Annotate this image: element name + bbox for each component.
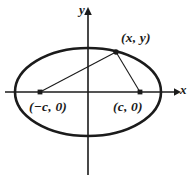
focal-radius-left-segment	[40, 52, 116, 92]
y-axis-label: y	[79, 3, 85, 16]
focus-left-point-marker	[38, 90, 43, 95]
focal-radii-group	[40, 52, 140, 92]
x-axis-label: x	[180, 83, 187, 96]
marked-points-group	[38, 49, 143, 94]
point-on-ellipse-label: (x, y)	[121, 31, 151, 45]
focus-right-point-marker	[138, 90, 143, 95]
ellipse-figure: y x (x, y) (−c, 0) (c, 0)	[0, 0, 196, 183]
axes-group	[5, 7, 181, 175]
ellipse-point-marker	[113, 49, 118, 54]
focus-left-label: (−c, 0)	[29, 100, 67, 114]
focus-right-label: (c, 0)	[113, 100, 143, 114]
y-axis-arrow-icon	[84, 7, 92, 15]
ellipse-figure-canvas	[0, 0, 196, 183]
